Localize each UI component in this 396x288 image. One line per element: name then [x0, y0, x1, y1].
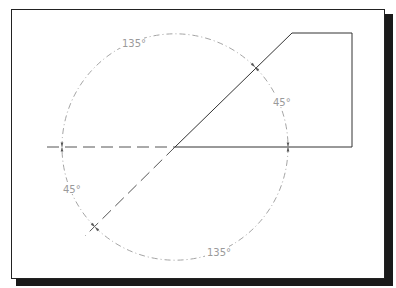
label-135-top: 135° — [122, 38, 146, 49]
label-45-left: 45° — [63, 184, 81, 195]
label-135-bottom: 135° — [207, 247, 231, 258]
arc-135-bottom — [95, 147, 288, 260]
object-outline — [175, 33, 352, 147]
technical-drawing: 135° 45° 45° 135° — [0, 0, 396, 288]
diagonal-extension-line — [85, 147, 175, 236]
arc-135-top — [62, 34, 255, 147]
label-45-right: 45° — [273, 97, 291, 108]
